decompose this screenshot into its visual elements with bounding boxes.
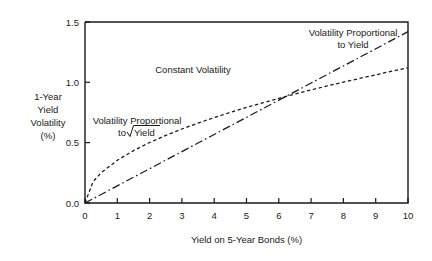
x-ticklabel-6: 6 — [276, 210, 281, 221]
x-ticklabel-8: 8 — [341, 210, 346, 221]
x-ticklabel-3: 3 — [179, 210, 184, 221]
x-ticklabel-1: 1 — [115, 210, 120, 221]
x-ticklabel-0: 0 — [82, 210, 87, 221]
y-axis-title: 1-Year Yield Volatility (%) — [31, 91, 66, 141]
x-ticklabel-7: 7 — [308, 210, 313, 221]
x-ticklabel-2: 2 — [147, 210, 152, 221]
annotation-proportional-yield-line1: Volatility Proportional — [309, 27, 398, 38]
annotation-sqrt-yield-line1: Volatility Proportional — [93, 115, 182, 126]
annotation-constant-volatility: Constant Volatility — [155, 64, 231, 75]
volatility-chart: 1.5 1.0 0.5 0.0 0 1 2 3 4 5 6 — [0, 0, 432, 261]
annotation-proportional-yield-line2: to Yield — [337, 39, 368, 50]
x-ticklabel-4: 4 — [212, 210, 217, 221]
x-ticklabel-10: 10 — [403, 210, 414, 221]
y-axis-title-line-4: (%) — [41, 130, 56, 141]
annotation-proportional-yield: Volatility Proportional to Yield — [309, 27, 398, 50]
y-axis-title-line-3: Volatility — [31, 117, 66, 128]
y-ticklabel-0-5: 0.5 — [66, 137, 79, 148]
annotation-sqrt-yield: Volatility Proportional to Yield — [93, 115, 182, 138]
annotation-sqrt-yield-line2-prefix: to — [118, 127, 126, 138]
x-ticklabel-5: 5 — [244, 210, 249, 221]
y-ticklabel-0-0: 0.0 — [66, 198, 79, 209]
y-axis-ticks — [85, 22, 90, 203]
chart-container: 1.5 1.0 0.5 0.0 0 1 2 3 4 5 6 — [0, 0, 432, 261]
y-ticklabel-1-5: 1.5 — [66, 17, 79, 28]
annotation-sqrt-yield-line2-radicand: Yield — [134, 127, 155, 138]
x-axis-tick-labels: 0 1 2 3 4 5 6 7 8 9 10 — [82, 210, 413, 221]
x-axis-ticks — [85, 198, 408, 203]
y-axis-title-line-1: 1-Year — [34, 91, 62, 102]
x-axis-title: Yield on 5-Year Bonds (%) — [191, 234, 302, 245]
y-ticklabel-1-0: 1.0 — [66, 77, 79, 88]
y-axis-title-line-2: Yield — [38, 104, 59, 115]
x-ticklabel-9: 9 — [373, 210, 378, 221]
y-axis-tick-labels: 1.5 1.0 0.5 0.0 — [66, 17, 79, 209]
